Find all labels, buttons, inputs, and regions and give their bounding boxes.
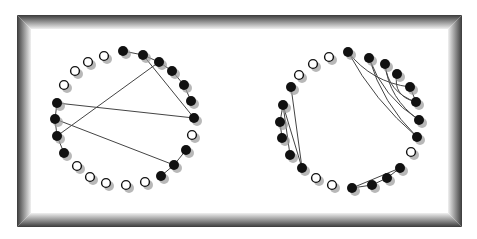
frame-left: [17, 15, 31, 227]
node-circle: [84, 58, 93, 67]
node-circle: [118, 46, 128, 56]
node-circle: [277, 133, 287, 143]
node-circle: [411, 97, 421, 107]
node-circle: [102, 179, 111, 188]
node-circle: [60, 81, 69, 90]
node-circle: [312, 174, 321, 183]
frame-bottom: [17, 213, 462, 227]
node-circle: [179, 80, 189, 90]
node-circle: [343, 47, 353, 57]
node-circle: [395, 163, 405, 173]
node-circle: [364, 53, 374, 63]
node-circle: [278, 100, 288, 110]
node-circle: [156, 171, 166, 181]
node-circle: [169, 160, 179, 170]
node-circle: [328, 181, 337, 190]
node-circle: [325, 53, 334, 62]
node-circle: [154, 57, 164, 67]
node-circle: [405, 82, 415, 92]
node-circle: [286, 82, 296, 92]
node-circle: [86, 173, 95, 182]
node-circle: [297, 163, 307, 173]
node-circle: [188, 131, 197, 140]
node-circle: [380, 59, 390, 69]
node-circle: [275, 117, 285, 127]
node-circle: [407, 148, 416, 157]
picture-frame-border: [17, 15, 462, 227]
diagram-canvas: [0, 0, 477, 239]
node-circle: [414, 115, 424, 125]
frame-top: [17, 15, 462, 29]
node-circle: [181, 145, 191, 155]
node-circle: [122, 181, 131, 190]
node-circle: [412, 132, 422, 142]
graph-comparison-figure: [0, 0, 477, 239]
frame-right: [448, 15, 462, 227]
node-circle: [392, 69, 402, 79]
node-circle: [71, 67, 80, 76]
node-circle: [285, 150, 295, 160]
node-circle: [186, 96, 196, 106]
node-circle: [52, 131, 62, 141]
node-circle: [52, 98, 62, 108]
node-circle: [167, 66, 177, 76]
node-circle: [138, 50, 148, 60]
node-circle: [347, 183, 357, 193]
node-circle: [59, 148, 69, 158]
node-circle: [100, 52, 109, 61]
node-circle: [309, 60, 318, 69]
node-circle: [367, 180, 377, 190]
node-circle: [189, 113, 199, 123]
node-circle: [73, 162, 82, 171]
node-circle: [295, 71, 304, 80]
node-circle: [50, 114, 60, 124]
node-circle: [382, 173, 392, 183]
node-circle: [141, 178, 150, 187]
